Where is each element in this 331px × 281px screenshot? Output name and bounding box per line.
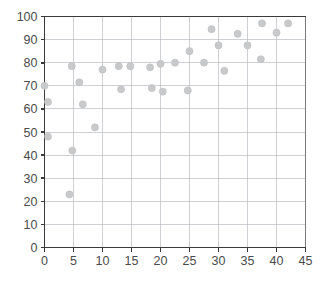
data-point — [115, 63, 122, 70]
x-tick-label: 5 — [70, 254, 77, 268]
y-tick-label: 10 — [24, 218, 38, 232]
data-point — [208, 26, 215, 33]
data-point — [69, 147, 76, 154]
y-tick-label: 70 — [24, 79, 38, 93]
data-point — [148, 85, 155, 92]
data-point — [186, 48, 193, 55]
data-point — [171, 59, 178, 66]
y-tick-label: 90 — [24, 33, 38, 47]
data-point — [66, 191, 73, 198]
y-tick-label: 60 — [24, 102, 38, 116]
data-point — [234, 30, 241, 37]
data-point — [99, 66, 106, 73]
x-tick-label: 15 — [125, 254, 139, 268]
data-point — [41, 82, 48, 89]
data-point — [44, 98, 51, 105]
x-tick-label: 40 — [270, 254, 284, 268]
y-tick-label: 20 — [24, 195, 38, 209]
y-tick-label: 50 — [24, 126, 38, 140]
y-tick-label: 40 — [24, 149, 38, 163]
data-point — [257, 56, 264, 63]
data-point — [215, 42, 222, 49]
data-point — [258, 20, 265, 27]
x-tick-label: 20 — [154, 254, 168, 268]
chart-background — [0, 0, 331, 281]
y-tick-label: 30 — [24, 172, 38, 186]
data-point — [285, 20, 292, 27]
data-point — [44, 133, 51, 140]
data-point — [146, 64, 153, 71]
data-point — [273, 29, 280, 36]
y-tick-label: 100 — [17, 10, 38, 24]
data-point — [200, 59, 207, 66]
chart-canvas: 0102030405060708090100 05101520253035404… — [0, 0, 331, 281]
data-point — [184, 87, 191, 94]
data-point — [221, 67, 228, 74]
x-tick-label: 35 — [241, 254, 255, 268]
data-point — [76, 79, 83, 86]
y-tick-label: 80 — [24, 56, 38, 70]
data-point — [159, 88, 166, 95]
data-point — [68, 63, 75, 70]
scatter-chart: 0102030405060708090100 05101520253035404… — [0, 0, 331, 281]
y-tick-label: 0 — [31, 241, 38, 255]
x-tick-label: 45 — [299, 254, 313, 268]
data-point — [244, 42, 251, 49]
data-point — [91, 124, 98, 131]
x-tick-label: 30 — [212, 254, 226, 268]
x-tick-label: 25 — [183, 254, 197, 268]
data-point — [157, 60, 164, 67]
x-tick-label: 0 — [41, 254, 48, 268]
data-point — [127, 63, 134, 70]
x-tick-label: 10 — [96, 254, 110, 268]
data-point — [79, 101, 86, 108]
data-point — [117, 86, 124, 93]
